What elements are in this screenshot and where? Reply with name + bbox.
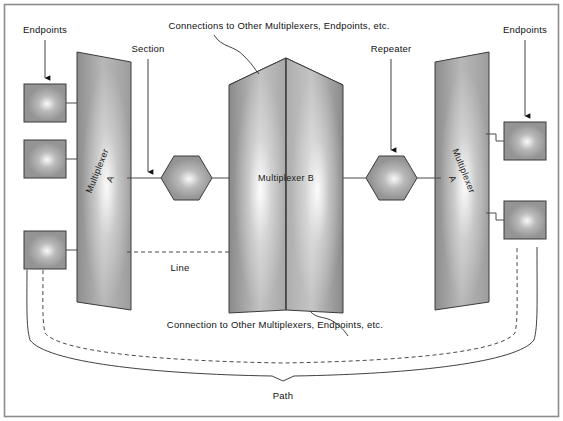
- diagram-canvas: Multiplexer A Multiplexer B Multiplexer …: [0, 0, 563, 421]
- multiplexer-a-right: Multiplexer A: [435, 52, 489, 310]
- label-endpoints-right: Endpoints: [503, 24, 547, 35]
- endpoint-left-2: [24, 140, 66, 178]
- multiplexer-a-left: Multiplexer A: [77, 52, 131, 310]
- repeater-right: [366, 156, 417, 200]
- label-path: Path: [273, 390, 293, 401]
- endpoint-left-3: [24, 231, 66, 269]
- endpoint-right-1: [504, 122, 546, 160]
- label-section: Section: [131, 43, 164, 54]
- label-repeater: Repeater: [371, 43, 412, 54]
- network-topology-diagram: Multiplexer A Multiplexer B Multiplexer …: [0, 0, 563, 421]
- label-connection-bottom: Connection to Other Multiplexers, Endpoi…: [167, 319, 383, 330]
- label-connections-top: Connections to Other Multiplexers, Endpo…: [168, 20, 389, 31]
- leader-connections-top: [214, 35, 259, 74]
- repeater-left: [161, 156, 212, 200]
- endpoint-right-2: [504, 201, 546, 239]
- multiplexer-b-center: Multiplexer B: [229, 58, 343, 313]
- multiplexer-b-label: Multiplexer B: [258, 173, 314, 183]
- label-endpoints-left: Endpoints: [23, 24, 67, 35]
- endpoint-left-1: [24, 84, 66, 122]
- label-line: Line: [171, 262, 190, 273]
